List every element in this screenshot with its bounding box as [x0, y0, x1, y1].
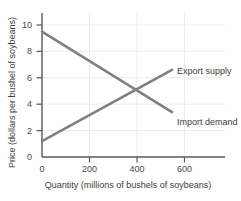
x-axis-title: Quantity (millions of bushels of soybean… — [28, 180, 228, 190]
y-tick-label-2: 2 — [16, 126, 32, 136]
y-tick-label-8: 8 — [16, 46, 32, 56]
y-tick-label-10: 10 — [16, 20, 32, 30]
y-tick-label-0: 0 — [16, 152, 32, 162]
x-tick-label-200: 200 — [78, 164, 102, 174]
x-tick-label-0: 0 — [30, 164, 54, 174]
series-label-export-supply: Export supply — [177, 66, 232, 76]
x-tick-label-600: 600 — [173, 164, 197, 174]
y-tick-label-4: 4 — [16, 99, 32, 109]
soybean-trade-chart: 10 8 6 4 2 0 0 200 400 600 Price (dollar… — [0, 0, 241, 201]
x-tick-label-400: 400 — [125, 164, 149, 174]
series-label-import-demand: Import demand — [177, 117, 238, 127]
x-axis-ticks — [90, 157, 185, 163]
series-line-import-demand — [42, 32, 172, 113]
gridlines — [42, 13, 225, 157]
y-axis-title: Price (dollars per bushel of soybeans) — [7, 18, 17, 168]
axis-lines — [42, 13, 225, 157]
y-axis-ticks — [37, 25, 43, 131]
y-tick-label-6: 6 — [16, 73, 32, 83]
